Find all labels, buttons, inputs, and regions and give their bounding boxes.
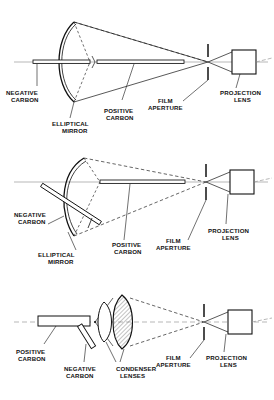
- svg-text:NEGATIVE: NEGATIVE: [6, 89, 38, 96]
- positive-carbon-rod: [97, 60, 184, 63]
- svg-text:ELLIPTICAL: ELLIPTICAL: [52, 120, 89, 127]
- projection-lens-box: [228, 310, 252, 334]
- label-elliptical-mirror: ELLIPTICAL MIRROR: [52, 120, 89, 134]
- svg-text:APERTURE: APERTURE: [148, 104, 183, 111]
- svg-text:CARBON: CARBON: [18, 218, 46, 225]
- ray-arc-to-mirror-top: [84, 158, 100, 182]
- svg-text:PROJECTION: PROJECTION: [220, 89, 261, 96]
- svg-text:LENS: LENS: [220, 361, 237, 368]
- svg-text:CARBON: CARBON: [114, 248, 142, 255]
- ray-lower-mirror-to-aperture: [74, 182, 206, 236]
- positive-carbon-rod: [100, 180, 185, 183]
- label-condenser-lenses: CONDENSER LENSES: [116, 365, 157, 379]
- label-positive-carbon: POSITIVE CARBON: [112, 241, 142, 255]
- ray-lower-mirror-to-aperture: [74, 62, 208, 102]
- svg-text:APERTURE: APERTURE: [156, 361, 191, 368]
- ray-upper-mirror-to-aperture: [84, 158, 206, 182]
- figure-sheet: NEGATIVE CARBON ELLIPTICAL MIRROR POSITI…: [0, 0, 274, 400]
- label-projection-lens: PROJECTION LENS: [220, 89, 261, 103]
- label-projection-lens: PROJECTION LENS: [208, 227, 249, 241]
- panel-3-condenser-lens-arc: POSITIVE CARBON NEGATIVE CARBON CONDENSE…: [0, 280, 274, 400]
- ray-aperture-to-lens-lower: [208, 62, 232, 72]
- label-positive-carbon: POSITIVE CARBON: [16, 348, 46, 362]
- negative-carbon-tip-mark: [88, 218, 92, 228]
- svg-text:CARBON: CARBON: [66, 372, 94, 379]
- condenser-lens-2: [113, 295, 133, 349]
- leader-positive-carbon: [44, 326, 56, 344]
- ray-lens-to-aperture-upper: [130, 298, 204, 322]
- label-film-aperture: FILM APERTURE: [156, 237, 191, 251]
- svg-text:ELLIPTICAL: ELLIPTICAL: [38, 251, 75, 258]
- projection-lens-box: [230, 170, 254, 194]
- svg-text:FILM: FILM: [158, 97, 173, 104]
- projected-beam-axis: [254, 178, 272, 182]
- svg-text:LENS: LENS: [222, 234, 239, 241]
- svg-text:NEGATIVE: NEGATIVE: [14, 211, 46, 218]
- label-film-aperture: FILM APERTURE: [148, 97, 183, 111]
- ray-dashed-upper: [74, 22, 208, 62]
- negative-carbon-rod: [41, 183, 102, 224]
- leader-condenser-lens-2: [120, 349, 124, 362]
- label-elliptical-mirror: ELLIPTICAL MIRROR: [38, 251, 75, 265]
- panel-2-reflector-arc-angled-carbon: NEGATIVE CARBON ELLIPTICAL MIRROR POSITI…: [0, 140, 274, 280]
- svg-text:FILM: FILM: [166, 354, 181, 361]
- leader-elliptical-mirror: [70, 102, 74, 118]
- svg-text:POSITIVE: POSITIVE: [104, 107, 133, 114]
- svg-text:POSITIVE: POSITIVE: [16, 348, 45, 355]
- leader-film-aperture: [190, 340, 204, 358]
- svg-text:CONDENSER: CONDENSER: [116, 365, 157, 372]
- svg-text:CARBON: CARBON: [106, 114, 134, 121]
- projected-beam-axis: [252, 318, 272, 322]
- projected-beam-axis: [256, 58, 272, 62]
- leader-condenser-lens-1: [106, 342, 116, 362]
- svg-text:APERTURE: APERTURE: [156, 244, 191, 251]
- label-projection-lens: PROJECTION LENS: [206, 354, 247, 368]
- leader-projection-lens: [224, 334, 226, 352]
- elliptical-mirror-inner: [67, 161, 86, 234]
- svg-text:CARBON: CARBON: [18, 355, 46, 362]
- ray-aperture-to-lens-lower: [204, 322, 228, 332]
- label-film-aperture: FILM APERTURE: [156, 354, 191, 368]
- svg-text:PROJECTION: PROJECTION: [206, 354, 247, 361]
- condenser-lens-1: [98, 302, 112, 342]
- panel-1-reflector-arc-inline: NEGATIVE CARBON ELLIPTICAL MIRROR POSITI…: [0, 0, 274, 140]
- leader-negative-carbon: [84, 344, 86, 362]
- label-negative-carbon: NEGATIVE CARBON: [6, 89, 39, 103]
- svg-text:POSITIVE: POSITIVE: [112, 241, 141, 248]
- negative-carbon-rod: [78, 324, 96, 349]
- ray-arc-to-mirror-bottom: [74, 62, 90, 102]
- ray-aperture-to-lens-upper: [204, 312, 228, 322]
- projection-lens-box: [232, 50, 256, 74]
- svg-text:PROJECTION: PROJECTION: [208, 227, 249, 234]
- svg-text:LENS: LENS: [234, 96, 251, 103]
- svg-text:MIRROR: MIRROR: [62, 127, 88, 134]
- svg-text:FILM: FILM: [166, 237, 181, 244]
- ray-aperture-to-lens-lower: [206, 182, 230, 192]
- leader-positive-carbon: [124, 184, 130, 240]
- label-negative-carbon: NEGATIVE CARBON: [14, 211, 46, 225]
- svg-text:CARBON: CARBON: [11, 96, 39, 103]
- leader-film-aperture: [183, 80, 208, 101]
- ray-aperture-to-lens-upper: [208, 52, 232, 62]
- leader-projection-lens: [226, 194, 228, 224]
- svg-text:MIRROR: MIRROR: [48, 258, 74, 265]
- negative-carbon-rod: [33, 60, 90, 63]
- leader-projection-lens: [236, 74, 240, 88]
- svg-text:LENSES: LENSES: [120, 372, 145, 379]
- svg-text:NEGATIVE: NEGATIVE: [64, 365, 96, 372]
- ray-lens-to-aperture-lower: [130, 322, 204, 346]
- ray-arc-to-mirror-top: [74, 22, 90, 62]
- leader-film-aperture: [188, 200, 206, 240]
- label-negative-carbon: NEGATIVE CARBON: [64, 365, 96, 379]
- leader-positive-carbon: [122, 64, 134, 100]
- ray-aperture-to-lens-upper: [206, 172, 230, 182]
- leader-negative-carbon: [48, 216, 64, 224]
- label-positive-carbon: POSITIVE CARBON: [104, 107, 134, 121]
